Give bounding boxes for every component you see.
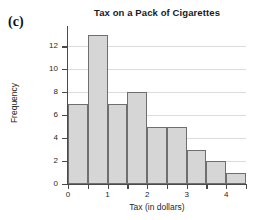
x-tick-mark xyxy=(127,185,128,189)
histogram-bar xyxy=(88,35,108,184)
y-tick-mark xyxy=(62,69,67,70)
histogram-bar xyxy=(68,104,88,184)
x-tick-label: 3 xyxy=(177,190,197,199)
y-tick-label: 2 xyxy=(0,156,58,165)
histogram-bar xyxy=(108,104,128,184)
histogram-bar xyxy=(206,161,226,184)
x-tick-mark xyxy=(187,185,188,189)
histogram-bar xyxy=(187,150,207,184)
histogram-bar xyxy=(167,127,187,184)
histogram-bar xyxy=(147,127,167,184)
plot-area xyxy=(68,28,246,184)
histogram-figure: (c) Tax on a Pack of Cigarettes 02468101… xyxy=(0,0,260,220)
chart-title: Tax on a Pack of Cigarettes xyxy=(67,7,247,18)
x-tick-label: 0 xyxy=(58,190,78,199)
x-tick-mark xyxy=(147,185,148,189)
y-tick-mark xyxy=(62,115,67,116)
x-axis-title: Tax (in dollars) xyxy=(67,202,247,212)
x-tick-mark xyxy=(246,185,247,189)
histogram-bar xyxy=(226,173,246,184)
y-tick-mark xyxy=(62,138,67,139)
y-tick-mark xyxy=(62,184,67,185)
x-tick-mark xyxy=(88,185,89,189)
y-tick-mark xyxy=(62,161,67,162)
histogram-bar xyxy=(127,92,147,184)
x-tick-mark xyxy=(167,185,168,189)
y-axis-title: Frequency xyxy=(9,68,19,138)
y-tick-label: 12 xyxy=(0,41,58,50)
y-axis-line xyxy=(67,26,68,185)
x-tick-label: 1 xyxy=(98,190,118,199)
x-tick-mark xyxy=(206,185,207,189)
x-tick-label: 4 xyxy=(216,190,236,199)
x-tick-mark xyxy=(68,185,69,189)
y-tick-mark xyxy=(62,92,67,93)
x-tick-mark xyxy=(108,185,109,189)
x-axis-line xyxy=(66,184,247,185)
panel-label: (c) xyxy=(8,14,24,30)
y-tick-label: 0 xyxy=(0,179,58,188)
x-tick-label: 2 xyxy=(137,190,157,199)
y-tick-mark xyxy=(62,46,67,47)
x-tick-mark xyxy=(226,185,227,189)
